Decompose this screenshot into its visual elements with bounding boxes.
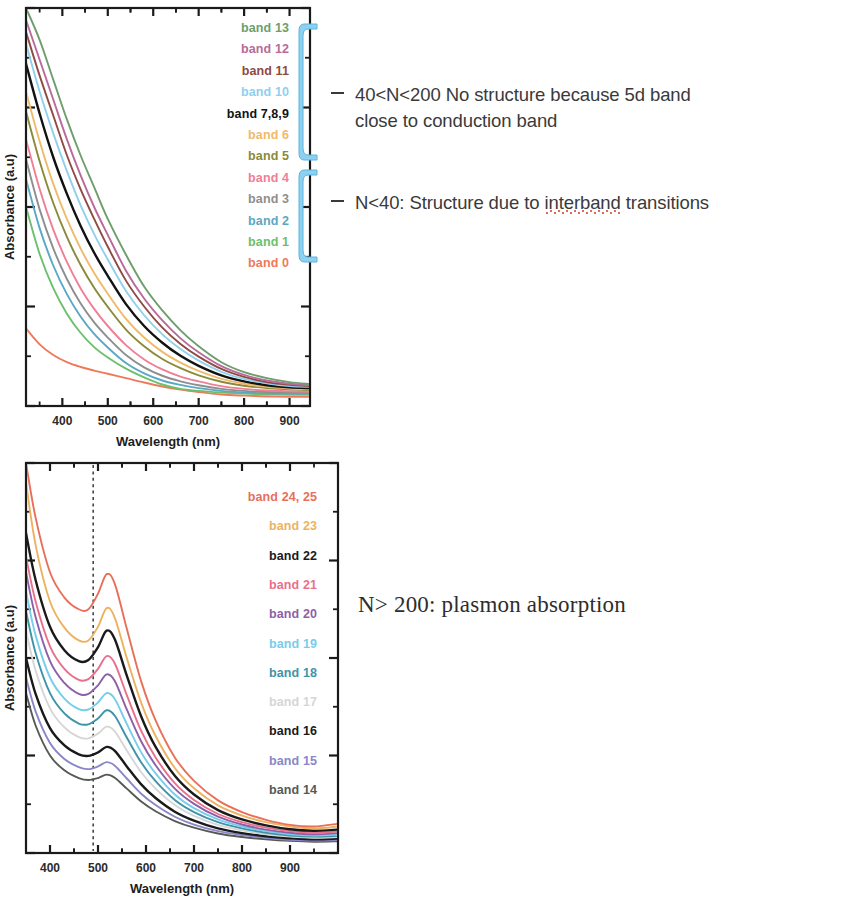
x-tick-label: 400 bbox=[52, 414, 72, 428]
annotation-low-n-suffix: transitions bbox=[621, 192, 709, 213]
spectra-chart-high-n: 400500600700800900Wavelength (nm)Absorba… bbox=[0, 455, 400, 920]
bracket-high-n-range bbox=[297, 22, 319, 162]
legend-item-band-18: band 18 bbox=[269, 666, 317, 680]
legend-item-band-21: band 21 bbox=[269, 578, 317, 592]
legend-item-band-4: band 4 bbox=[248, 171, 289, 185]
legend-item-band-13: band 13 bbox=[241, 21, 289, 35]
x-tick-label: 800 bbox=[234, 414, 254, 428]
annotation-low-n-prefix: N<40: Structure due to bbox=[355, 192, 545, 213]
x-tick-label: 900 bbox=[280, 861, 300, 875]
legend-item-band-15: band 15 bbox=[269, 754, 317, 768]
x-tick-label: 900 bbox=[280, 414, 300, 428]
x-tick-label: 400 bbox=[40, 861, 60, 875]
annotation-high-n-line2: close to conduction band bbox=[355, 108, 853, 134]
x-tick-label: 600 bbox=[143, 414, 163, 428]
y-axis-title: Absorbance (a.u) bbox=[2, 605, 17, 711]
annotation-plasmon: N> 200: plasmon absorption bbox=[358, 592, 626, 618]
legend-item-band-19: band 19 bbox=[269, 637, 317, 651]
x-axis-title: Wavelength (nm) bbox=[116, 434, 220, 449]
x-tick-label: 800 bbox=[232, 861, 252, 875]
legend-item-band-10: band 10 bbox=[241, 85, 289, 99]
legend-item-band-11: band 11 bbox=[242, 64, 289, 78]
legend-item-band-0: band 0 bbox=[248, 256, 289, 270]
legend-item-band-20: band 20 bbox=[269, 607, 317, 621]
x-tick-label: 500 bbox=[98, 414, 118, 428]
x-tick-label: 600 bbox=[136, 861, 156, 875]
spectra-plot-high-n-svg: 400500600700800900Wavelength (nm)Absorba… bbox=[0, 455, 400, 920]
x-tick-label: 700 bbox=[184, 861, 204, 875]
legend-item-band-1: band 1 bbox=[248, 235, 289, 249]
legend-item-band-23: band 23 bbox=[269, 519, 317, 533]
bracket-low-n-range bbox=[297, 168, 319, 264]
annotation-low-n-misspelled-word: interband bbox=[545, 192, 621, 215]
legend-item-band-2: band 2 bbox=[248, 214, 289, 228]
legend-item-band-14: band 14 bbox=[269, 783, 317, 797]
y-axis-title: Absorbance (a.u) bbox=[2, 154, 17, 260]
legend-item-band-3: band 3 bbox=[248, 192, 289, 206]
spectra-chart-low-n: 400500600700800900Wavelength (nm)Absorba… bbox=[0, 0, 345, 455]
x-axis-title: Wavelength (nm) bbox=[130, 881, 234, 896]
legend-item-band-7-8-9: band 7,8,9 bbox=[227, 107, 289, 121]
spectra-plot-low-n-svg: 400500600700800900Wavelength (nm)Absorba… bbox=[0, 0, 345, 455]
legend-item-band-5: band 5 bbox=[248, 149, 289, 163]
annotation-high-n: 40<N<200 No structure because 5d band cl… bbox=[355, 82, 853, 135]
legend-item-band-17: band 17 bbox=[269, 695, 317, 709]
bracket-connector-low-n bbox=[331, 200, 344, 202]
legend-item-band-24-25: band 24, 25 bbox=[248, 490, 317, 504]
bracket-connector-high-n bbox=[331, 92, 344, 94]
x-tick-label: 500 bbox=[88, 861, 108, 875]
annotation-low-n: N<40: Structure due to interband transit… bbox=[355, 190, 853, 216]
legend-item-band-22: band 22 bbox=[269, 549, 317, 563]
annotation-high-n-line1: 40<N<200 No structure because 5d band bbox=[355, 82, 853, 108]
legend-item-band-12: band 12 bbox=[241, 42, 289, 56]
x-tick-label: 700 bbox=[189, 414, 209, 428]
legend-item-band-16: band 16 bbox=[269, 724, 317, 738]
legend-item-band-6: band 6 bbox=[248, 128, 289, 142]
